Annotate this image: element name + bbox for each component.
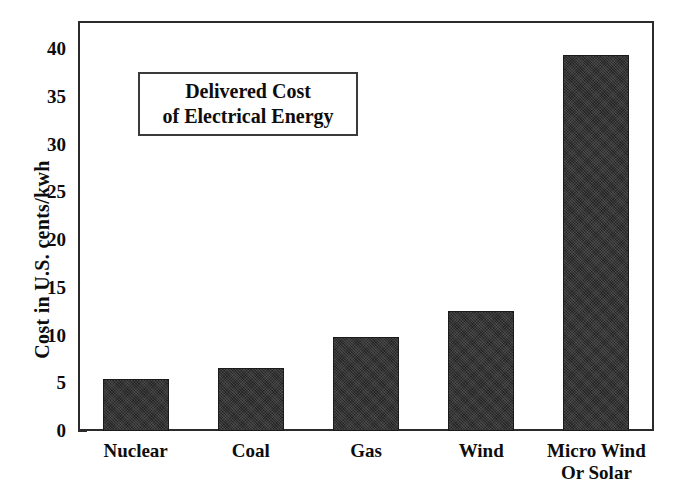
x-axis-label-micro-wind-or-solar: Micro Wind Or Solar — [539, 440, 654, 485]
bar-wind — [448, 311, 514, 431]
x-axis-label-gas: Gas — [308, 440, 423, 462]
bar-gas — [333, 337, 399, 431]
x-axis-label-coal: Coal — [193, 440, 308, 462]
y-tick-label: 25 — [8, 182, 66, 201]
x-axis-label-wind: Wind — [424, 440, 539, 462]
bar-micro-wind-or-solar — [563, 55, 629, 431]
bar-chart: Cost in U.S. cents/kwh 0510152025303540 … — [0, 0, 678, 487]
chart-title-line-2: of Electrical Energy — [162, 104, 333, 129]
y-tick-label: 0 — [8, 421, 66, 440]
y-tick-label: 20 — [8, 230, 66, 249]
x-axis-label-nuclear: Nuclear — [78, 440, 193, 462]
bar-nuclear — [103, 379, 169, 431]
y-tick-label: 5 — [8, 373, 66, 392]
y-tick-label: 10 — [8, 326, 66, 345]
chart-title-box: Delivered Cost of Electrical Energy — [138, 72, 358, 136]
y-tick-label: 15 — [8, 278, 66, 297]
chart-title-line-1: Delivered Cost — [185, 79, 311, 104]
y-tick-label: 35 — [8, 87, 66, 106]
y-tick-label: 30 — [8, 135, 66, 154]
y-tick-label: 40 — [8, 39, 66, 58]
bar-coal — [218, 368, 284, 431]
